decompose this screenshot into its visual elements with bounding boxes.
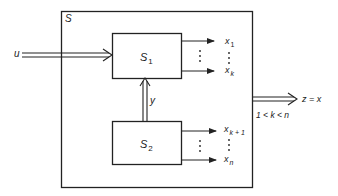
system-output-arrow: [252, 93, 297, 105]
s2-output-arrows: [181, 131, 230, 160]
coupling-y-label: y: [149, 95, 156, 106]
input-u-label: u: [14, 48, 20, 59]
system-diagram: S S1 S2 u y x1 xk xk + 1 xn: [0, 0, 338, 196]
output-xk-label: xk: [224, 65, 235, 77]
output-x1-label: x1: [224, 36, 235, 48]
input-u-arrow: [22, 49, 112, 61]
output-xk1-label: xk + 1: [223, 124, 245, 136]
coupling-y-arrow: [140, 78, 150, 121]
outer-system-label: S: [65, 13, 72, 24]
s1-output-arrows: [181, 41, 230, 71]
system-output-condition: 1 < k < n: [256, 110, 289, 120]
subsystem-1-label: S1: [140, 51, 153, 66]
output-xn-label: xn: [223, 154, 234, 166]
subsystem-2-label: S2: [140, 138, 153, 153]
system-output-label: z = x: [301, 94, 322, 104]
